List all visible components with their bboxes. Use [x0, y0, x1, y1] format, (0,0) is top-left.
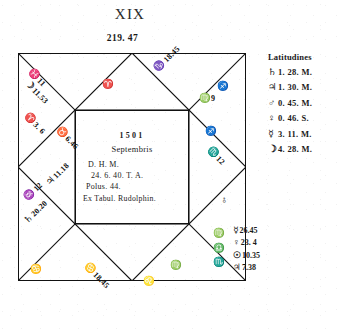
planet-row: ♀23. 4	[233, 236, 260, 248]
latitudines-row: ☽4. 28. M.	[268, 142, 343, 157]
horoscope-square-chart: 1501 Septembris D. H. M. 24. 6. 40. T. A…	[18, 53, 246, 281]
cusp-bottom-mid: ♌	[143, 275, 155, 286]
cusp-right-virgo: ♍9	[199, 92, 215, 103]
cusp-bottom-left-cancer: ♋	[30, 263, 42, 274]
latitudines-table: Latitudines ♄1. 28. M. ♃1. 30. M. ♂0. 45…	[268, 52, 343, 157]
top-cusp-value: 219. 47	[0, 33, 245, 43]
latitudines-row: ☿3. 11. M.	[268, 127, 343, 142]
virgo-icon: ♍	[213, 226, 225, 241]
latitudines-row: ♂0. 45. M.	[268, 96, 343, 111]
latitudines-row: ♄1. 28. M.	[268, 65, 343, 80]
chart-polus: Polus. 44.	[86, 181, 121, 192]
saturn-icon: ♄	[268, 65, 278, 80]
planet-row: ♃7.38	[233, 261, 260, 273]
virgo-icon: ♍	[170, 260, 182, 270]
chart-time-values: 24. 6. 40. T. A.	[91, 170, 143, 181]
planet-row: ☉10.35	[233, 249, 260, 261]
libra-icon: ♎	[213, 241, 225, 256]
latitudines-row: ♃1. 30. M.	[268, 80, 343, 95]
mars-icon: ♂	[268, 96, 278, 111]
cancer-icon: ♋	[30, 264, 42, 274]
cusp-upper-right-sagittarius: ♐	[217, 80, 229, 91]
venus-icon: ♀	[268, 111, 278, 126]
sagittarius-icon: ♐	[205, 126, 217, 136]
jupiter-icon: ♃	[268, 80, 278, 95]
sun-icon: ☉	[233, 250, 242, 260]
leo-icon: ♌	[143, 276, 155, 286]
latitudines-row: ♀0. 46. S.	[268, 111, 343, 126]
chart-year: 1501	[120, 130, 145, 141]
plate-number: XIX	[0, 6, 260, 23]
chart-column-headers: D. H. M.	[88, 159, 119, 170]
latitudines-title: Latitudines	[268, 52, 343, 62]
jupiter-icon: ♃	[233, 262, 242, 272]
chart-center-data-block: 1501 Septembris D. H. M. 24. 6. 40. T. A…	[75, 110, 189, 224]
mercury-icon: ☿	[268, 127, 278, 142]
cusp-right-sagittarius: ♐	[205, 125, 217, 136]
cusp-upper-mid-left: ♈	[102, 78, 114, 89]
aries-icon: ♈	[102, 79, 114, 89]
moon-icon: ☽	[268, 142, 278, 157]
chart-source: Ex Tabul. Rudolphin.	[83, 193, 156, 204]
chart-month: Septembris	[111, 143, 152, 155]
venus-icon: ♀	[233, 237, 241, 247]
sagittarius-icon: ♐	[217, 81, 229, 91]
planet-position-cluster: ☿26.45 ♀23. 4 ☉10.35 ♃7.38	[233, 224, 260, 274]
planet-cluster-signs: ♍ ♎ ♏	[213, 226, 225, 270]
planet-row: ☿26.45	[233, 224, 260, 236]
scorpio-icon: ♏	[213, 255, 225, 270]
virgo-icon: ♍	[199, 93, 211, 103]
cusp-bottom-right: ♍	[170, 259, 182, 270]
